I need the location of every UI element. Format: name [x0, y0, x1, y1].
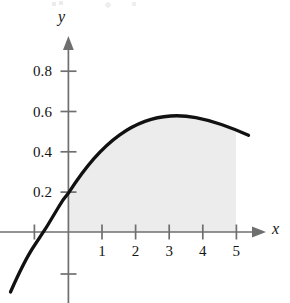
y-tick-label-0.6: 0.6	[8, 103, 52, 120]
x-tick-label-4: 4	[199, 243, 207, 260]
x-tick-label-3: 3	[165, 243, 173, 260]
x-tick-label-2: 2	[132, 243, 140, 260]
y-tick-label-0.4: 0.4	[8, 143, 52, 160]
y-axis-label: y	[58, 8, 65, 26]
shaded-area-under-curve	[68, 116, 236, 232]
x-axis-arrowhead	[252, 227, 266, 238]
x-axis-label: x	[272, 220, 279, 238]
x-tick-label-5: 5	[233, 243, 241, 260]
x-tick-label-1: 1	[98, 243, 106, 260]
y-tick-label-0.2: 0.2	[8, 184, 52, 201]
y-tick-label-0.8: 0.8	[8, 63, 52, 80]
y-axis-arrowhead	[63, 36, 74, 50]
figure-container: 0.8 0.6 0.4 0.2 1 2 3 4 5 y x	[0, 0, 290, 303]
